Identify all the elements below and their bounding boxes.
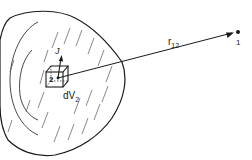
inner-contour-inner xyxy=(20,50,39,120)
label-r12: r12 xyxy=(168,36,179,49)
diagram-canvas: J 2 dV2 r12 1 xyxy=(0,0,252,160)
label-current-density: J xyxy=(54,46,60,56)
label-dV-main: dV xyxy=(63,90,76,101)
label-point-2: 2 xyxy=(49,75,54,84)
field-point-1 xyxy=(236,30,240,34)
distance-vector-r12 xyxy=(58,33,234,79)
label-r-sub: 12 xyxy=(171,42,179,49)
label-point-1: 1 xyxy=(236,38,241,47)
label-dV-sub: 2 xyxy=(75,96,79,103)
label-dV: dV2 xyxy=(63,90,79,103)
